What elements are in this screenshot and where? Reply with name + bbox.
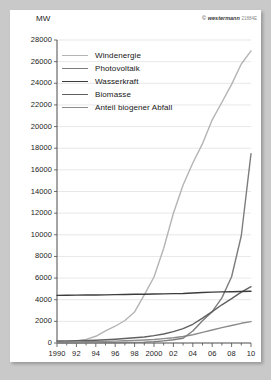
legend-swatch-wasserkraft bbox=[62, 81, 88, 82]
y-tick-label: 12000 bbox=[31, 208, 52, 217]
legend-label-anteil-biogener-abfall: Anteil biogener Abfall bbox=[95, 103, 172, 112]
chart-screenshot: MW © westermann 21884E Windenergie Photo… bbox=[0, 0, 271, 380]
y-tick-label: 6000 bbox=[35, 273, 52, 282]
y-tick-label: 22000 bbox=[31, 100, 52, 109]
series-line-photovoltaik bbox=[57, 154, 251, 343]
y-tick-label: 16000 bbox=[31, 165, 52, 174]
legend-item-biomasse[interactable]: Biomasse bbox=[62, 88, 172, 101]
y-tick-label: 24000 bbox=[31, 78, 52, 87]
y-tick-label: 8000 bbox=[35, 251, 52, 260]
y-tick-label: 20000 bbox=[31, 122, 52, 131]
chart-card: MW © westermann 21884E Windenergie Photo… bbox=[10, 10, 261, 362]
y-tick-label: 18000 bbox=[31, 143, 52, 152]
legend-item-wasserkraft[interactable]: Wasserkraft bbox=[62, 75, 172, 88]
legend-swatch-photovoltaik bbox=[62, 68, 88, 69]
series-line-wasserkraft bbox=[57, 291, 251, 295]
legend-label-wasserkraft: Wasserkraft bbox=[95, 77, 138, 86]
y-tick-label: 10000 bbox=[31, 230, 52, 239]
x-tick-marks-group bbox=[57, 343, 251, 347]
legend-label-biomasse: Biomasse bbox=[95, 90, 131, 99]
y-tick-label: 2000 bbox=[35, 316, 52, 325]
legend-label-photovoltaik: Photovoltaik bbox=[95, 64, 140, 73]
y-tick-label: 14000 bbox=[31, 187, 52, 196]
legend-swatch-anteil-biogener-abfall bbox=[62, 107, 88, 108]
y-tick-label: 0 bbox=[48, 338, 52, 347]
legend-label-windenergie: Windenergie bbox=[95, 51, 141, 60]
y-tick-label: 4000 bbox=[35, 295, 52, 304]
legend-swatch-biomasse bbox=[62, 94, 88, 95]
legend-item-windenergie[interactable]: Windenergie bbox=[62, 49, 172, 62]
x-tick-label: 10 bbox=[237, 349, 265, 358]
y-tick-label: 26000 bbox=[31, 57, 52, 66]
chart-legend: Windenergie Photovoltaik Wasserkraft Bio… bbox=[62, 49, 172, 114]
y-tick-label: 28000 bbox=[31, 35, 52, 44]
legend-item-anteil-biogener-abfall[interactable]: Anteil biogener Abfall bbox=[62, 101, 172, 114]
legend-item-photovoltaik[interactable]: Photovoltaik bbox=[62, 62, 172, 75]
legend-swatch-windenergie bbox=[62, 55, 88, 56]
